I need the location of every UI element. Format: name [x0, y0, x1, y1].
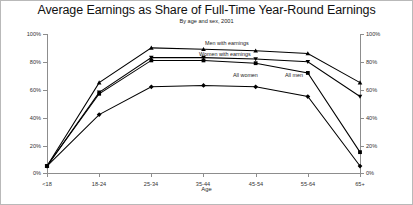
series-line	[47, 85, 360, 166]
series-men-with-earnings	[45, 46, 363, 168]
y-label-right-20: 20%	[366, 143, 392, 149]
y-label-right-40: 40%	[366, 115, 392, 121]
data-point	[254, 61, 258, 65]
series-women-with-earnings	[45, 56, 363, 169]
data-point	[358, 80, 363, 84]
y-label-right-80: 80%	[366, 59, 392, 65]
series-label-men-with-earnings: Men with earnings	[205, 40, 249, 46]
y-label-right-60: 60%	[366, 87, 392, 93]
y-label-left-80: 80%	[15, 59, 41, 65]
y-label-left-20: 20%	[15, 143, 41, 149]
data-point	[149, 84, 154, 89]
data-point	[358, 150, 362, 154]
y-label-left-0: 0%	[15, 170, 41, 176]
series-label-all-women: All women	[233, 72, 258, 78]
chart-subtitle: By age and sex, 2001	[1, 18, 412, 24]
data-point	[202, 59, 206, 63]
data-point	[149, 59, 153, 63]
y-label-left-60: 60%	[15, 87, 41, 93]
series-line	[47, 58, 360, 166]
data-point	[358, 95, 363, 99]
series-label-all-men: All men	[285, 72, 303, 78]
data-point	[253, 84, 258, 89]
series-label-women-with-earnings: Women with earnings	[199, 51, 251, 57]
y-label-right-100: 100%	[366, 31, 392, 37]
y-label-right-0: 0%	[366, 170, 392, 176]
data-point	[201, 83, 206, 88]
series-all-women	[45, 83, 363, 168]
chart-figure: Average Earnings as Share of Full-Time Y…	[0, 0, 413, 205]
chart-title: Average Earnings as Share of Full-Time Y…	[1, 3, 412, 17]
series-all-men	[45, 59, 362, 168]
series-line	[47, 60, 360, 166]
x-axis-title: Age	[1, 186, 412, 192]
data-point	[97, 92, 101, 96]
y-label-left-40: 40%	[15, 115, 41, 121]
y-label-left-100: 100%	[15, 31, 41, 37]
plot-area: 100% 80% 60% 40% 20% 0% 100% 80% 60% 40%…	[47, 34, 361, 174]
data-point	[306, 71, 310, 75]
